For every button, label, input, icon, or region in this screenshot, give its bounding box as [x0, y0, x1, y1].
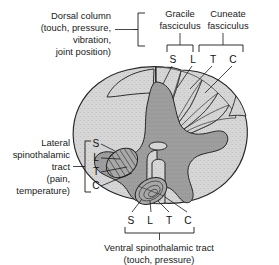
dorsal-letter-l: L [190, 54, 196, 65]
gracile-label-line-1: Gracile [165, 8, 195, 19]
lateral-label-line-1: Lateral [41, 137, 70, 148]
lateral-label-line-4: (pain, [47, 173, 70, 184]
dorsal-letter-c: C [229, 54, 236, 65]
gracile-letter-bracket [167, 45, 193, 52]
cuneate-letter-bracket [199, 45, 243, 52]
lateral-letter-t: T [93, 166, 99, 177]
dorsal-column-group-bracket [133, 13, 145, 46]
lateral-letter-l: L [93, 152, 99, 163]
dorsal-column-label-line-2: (touch, pressure, [41, 22, 111, 33]
central-canal [149, 142, 167, 150]
ventral-label-line-2: (touch, pressure) [124, 254, 195, 265]
ventral-letter-t: T [166, 215, 172, 226]
ventral-letter-s: S [128, 215, 135, 226]
lateral-label-line-2: spinothalamic [13, 149, 71, 160]
ventral-label-line-1: Ventral spinothalamic tract [104, 242, 214, 253]
lateral-label-line-5: temperature) [16, 185, 70, 196]
spinal-cord-tract-diagram: Dorsal column (touch, pressure, vibratio… [0, 0, 279, 265]
dorsal-column-label-group: Dorsal column (touch, pressure, vibratio… [41, 10, 145, 57]
ventral-spinothalamic-label-group: S L T C Ventral spinothalamic tract (tou… [104, 197, 214, 265]
dorsal-column-label-line-4: joint position) [55, 46, 111, 57]
ventral-letter-bracket [125, 227, 194, 233]
dorsal-column-label-line-1: Dorsal column [51, 10, 111, 21]
lateral-letter-c: C [92, 180, 99, 191]
lateral-letter-s: S [93, 138, 100, 149]
cuneate-fasciculus-label-group: Cuneate fasciculus [199, 8, 249, 52]
ventral-letter-c: C [184, 215, 191, 226]
dorsal-column-label-line-3: vibration, [73, 34, 111, 45]
gracile-label-line-2: fasciculus [159, 20, 200, 31]
cuneate-label-line-2: fasciculus [207, 20, 248, 31]
lateral-label-line-3: tract [52, 161, 71, 172]
dorsal-letter-t: T [210, 54, 216, 65]
ventral-letter-l: L [147, 215, 153, 226]
dorsal-letter-s: S [170, 54, 177, 65]
gracile-fasciculus-label-group: Gracile fasciculus [159, 8, 200, 52]
cuneate-label-line-1: Cuneate [210, 8, 245, 19]
